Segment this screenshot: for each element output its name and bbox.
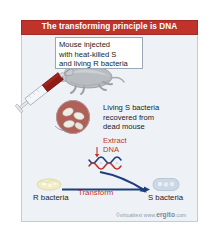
caption-right-line-1: Living S bacteria xyxy=(103,103,198,113)
caption-top-line-1: Mouse injected xyxy=(59,40,142,50)
caption-right: Living S bacteria recovered from dead mo… xyxy=(103,103,198,132)
s-bacteria-label: S bacteria xyxy=(148,193,183,202)
caption-top-line-2: with heat-killed S xyxy=(59,50,142,60)
credit-brand: ergito xyxy=(156,211,175,218)
credit-prefix: ©virtualtext www. xyxy=(116,212,156,218)
transform-label: Transform xyxy=(78,188,113,197)
caption-right-line-3: dead mouse xyxy=(103,122,198,132)
caption-top-line-3: and living R bacteria xyxy=(59,59,142,69)
extract-line-1: Extract xyxy=(103,136,127,145)
caption-right-line-2: recovered from xyxy=(103,113,198,123)
figure-title-bar: The transforming principle is DNA xyxy=(21,20,198,35)
transformation-figure: The transforming principle is DNA xyxy=(0,0,221,235)
extract-line-2: DNA xyxy=(103,145,127,154)
extract-dna-label: Extract DNA xyxy=(103,136,127,155)
r-bacteria-label: R bacteria xyxy=(33,193,69,202)
caption-top-box: Mouse injected with heat-killed S and li… xyxy=(55,37,143,69)
page-title: The transforming principle is DNA xyxy=(42,23,178,31)
credit-suffix: .com xyxy=(175,212,186,218)
credit-line: ©virtualtext www.ergito.com xyxy=(116,211,186,218)
